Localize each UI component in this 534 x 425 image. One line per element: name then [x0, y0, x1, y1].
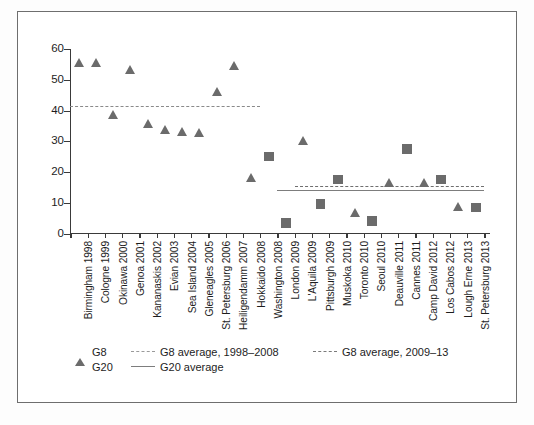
x-category-label: Evian 2003 [169, 241, 180, 291]
g8-data-marker [91, 58, 101, 67]
g8-data-marker [453, 202, 463, 211]
x-tick-mark [208, 233, 209, 238]
g8-data-marker [177, 127, 187, 136]
legend-entry-g20: G20 [73, 359, 113, 374]
y-axis-tick-labels: 0102030405060 [36, 0, 64, 300]
g20-data-marker [436, 175, 446, 185]
y-tick-label: 0 [42, 228, 64, 239]
x-tick-mark [329, 233, 330, 238]
x-tick-mark [88, 233, 89, 238]
triangle-marker-icon [73, 346, 87, 358]
g20-data-marker [367, 216, 377, 226]
legend-entry-g8: G8 [73, 344, 107, 359]
y-tick-label: 50 [42, 74, 64, 85]
reference-line [70, 106, 260, 107]
solid-line-icon [131, 366, 155, 367]
y-tick-mark [64, 49, 70, 50]
g8-data-marker [194, 128, 204, 137]
x-category-label: Deauville 2011 [394, 241, 405, 306]
x-tick-mark [243, 233, 244, 238]
x-tick-mark [70, 233, 71, 238]
g20-data-marker [471, 203, 481, 213]
g8-data-marker [125, 65, 135, 74]
x-category-label: Okinawa 2000 [118, 241, 129, 305]
x-category-label: Pittsburgh 2009 [325, 241, 336, 311]
x-category-label: Kananaskis 2002 [152, 241, 163, 318]
y-tick-label: 40 [42, 105, 64, 116]
g8-data-marker [108, 110, 118, 119]
x-tick-mark [433, 233, 434, 238]
x-tick-mark [277, 233, 278, 238]
g8-data-marker [350, 208, 360, 217]
x-tick-mark [312, 233, 313, 238]
x-tick-mark [226, 233, 227, 238]
x-category-label: Muskoka 2010 [342, 241, 353, 306]
g8-data-marker [419, 178, 429, 187]
y-tick-mark [64, 203, 70, 204]
y-tick-mark [64, 111, 70, 112]
g8-data-marker [229, 61, 239, 70]
legend-entry-g8-average-1998-2008: G8 average, 1998–2008 [131, 344, 279, 359]
y-tick-label: 30 [42, 135, 64, 146]
x-category-label: Birmingham 1998 [83, 241, 94, 319]
chart-figure: 0102030405060 Birmingham 1998Cologne 199… [0, 0, 534, 425]
x-tick-mark [381, 233, 382, 238]
y-tick-label: 10 [42, 197, 64, 208]
legend-label-g8-average-2009-13: G8 average, 2009–13 [342, 346, 448, 358]
g8-data-marker [212, 87, 222, 96]
x-tick-mark [174, 233, 175, 238]
x-axis-line [70, 233, 490, 234]
x-tick-mark [295, 233, 296, 238]
x-tick-mark [346, 233, 347, 238]
x-category-label: Cannes 2011 [411, 241, 422, 300]
x-tick-mark [191, 233, 192, 238]
x-category-label: Sea Island 2004 [187, 241, 198, 313]
legend-label-g20-average: G20 average [160, 361, 224, 373]
x-category-label: Gleneagles 2005 [204, 241, 215, 317]
y-tick-label: 60 [42, 43, 64, 54]
x-tick-mark [467, 233, 468, 238]
g8-data-marker [298, 136, 308, 145]
g8-data-marker [246, 173, 256, 182]
x-category-label: Lough Erne 2013 [463, 241, 474, 318]
legend-label-g8-average-1998-2008: G8 average, 1998–2008 [160, 346, 279, 358]
x-tick-mark [260, 233, 261, 238]
x-category-label: St. Petersburg 2006 [221, 241, 232, 330]
x-tick-mark [122, 233, 123, 238]
legend-entry-g20-average: G20 average [131, 359, 224, 374]
g8-data-marker [74, 58, 84, 67]
x-category-label: London 2009 [290, 241, 301, 299]
x-category-label: Camp David 2012 [428, 241, 439, 321]
y-tick-mark [64, 141, 70, 142]
reference-line [277, 190, 484, 191]
x-category-label: Seoul 2010 [376, 241, 387, 292]
dashed-line-dark-icon [313, 351, 337, 352]
g8-data-marker [143, 119, 153, 128]
x-tick-mark [484, 233, 485, 238]
x-category-label: Los Cabos 2012 [445, 241, 456, 314]
x-tick-mark [398, 233, 399, 238]
g8-data-marker [160, 125, 170, 134]
legend-label-g8: G8 [92, 346, 107, 358]
y-axis-line [70, 49, 71, 234]
x-tick-mark [450, 233, 451, 238]
y-tick-mark [64, 172, 70, 173]
y-tick-mark [64, 234, 70, 235]
dashed-line-light-icon [131, 351, 155, 352]
g20-data-marker [264, 152, 274, 162]
x-category-label: Hokkaido 2008 [256, 241, 267, 308]
x-category-label: Washington 2008 [273, 241, 284, 318]
x-category-label: Heiligendamm 2007 [238, 241, 249, 330]
y-tick-label: 20 [42, 166, 64, 177]
x-category-label: St. Petersburg 2013 [480, 241, 491, 330]
x-category-label: Cologne 1999 [100, 241, 111, 303]
y-tick-mark [64, 80, 70, 81]
x-tick-mark [415, 233, 416, 238]
x-tick-mark [139, 233, 140, 238]
x-tick-mark [105, 233, 106, 238]
x-category-label: Genoa 2001 [135, 241, 146, 296]
g20-data-marker [281, 218, 291, 228]
g20-data-marker [316, 199, 326, 209]
x-tick-mark [364, 233, 365, 238]
x-tick-mark [157, 233, 158, 238]
